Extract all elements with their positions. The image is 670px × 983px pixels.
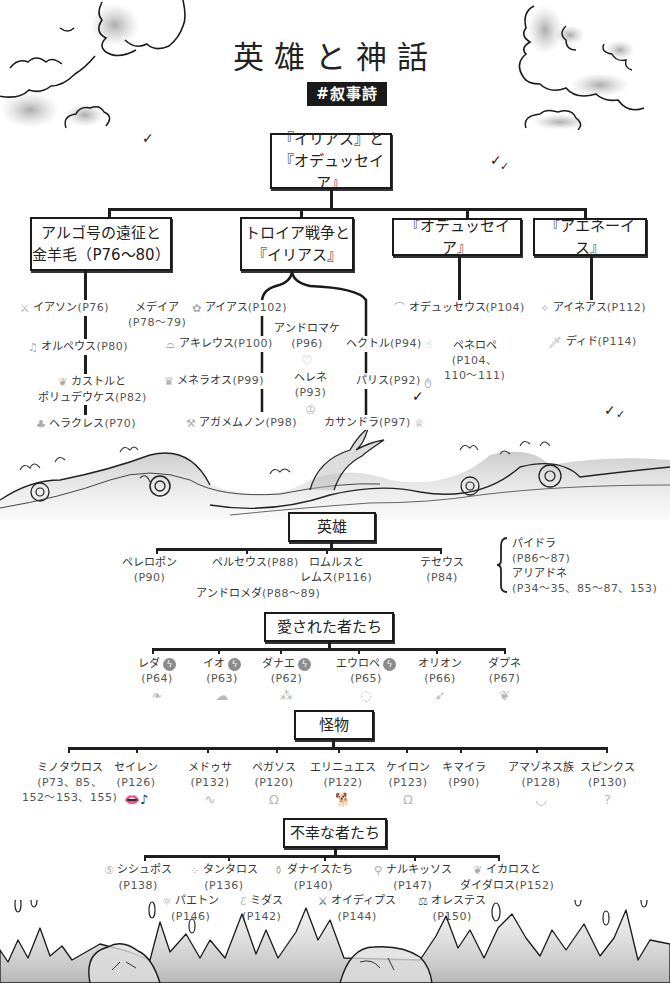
heel-icon: ⌓ bbox=[166, 337, 175, 352]
item-page: (P98) bbox=[265, 416, 297, 429]
connector bbox=[144, 855, 146, 861]
item-name: アイアス bbox=[205, 301, 248, 314]
item-name: ポリュデウケス bbox=[38, 391, 115, 404]
item-achilles: ⌓ アキレウス(P100) bbox=[164, 336, 275, 352]
root-line2: 『オデュッセイア』 bbox=[272, 150, 390, 194]
item-page: (P76) bbox=[77, 301, 109, 314]
section-label: 怪物 bbox=[296, 714, 372, 736]
item-page: (P100) bbox=[234, 337, 273, 350]
item-midas: ℰ ミダス (P142) bbox=[240, 893, 283, 924]
item-page: (P93) bbox=[294, 385, 327, 400]
bird-icon: ✓ bbox=[142, 130, 154, 146]
connector bbox=[498, 855, 500, 861]
item-bellerophon: ペレロポン (P90) bbox=[122, 555, 177, 585]
bulb-icon: ♕ bbox=[414, 416, 424, 431]
connector bbox=[436, 648, 438, 654]
item-page: (P104、 bbox=[444, 353, 505, 368]
lightning-bolt-icon: ϟ bbox=[163, 658, 176, 671]
item-icarus-daedalus: ❦ イカロスと ダイダロス(P152) bbox=[460, 862, 554, 893]
item-page: (P136) bbox=[190, 878, 258, 893]
unfortunate-ones-box: 不幸な者たち bbox=[283, 818, 387, 848]
connector bbox=[440, 548, 442, 554]
lightning-bolt-icon: ϟ bbox=[383, 658, 396, 671]
root-line1: 『イリアス』と bbox=[272, 128, 390, 150]
item-page: (P86〜87) bbox=[512, 551, 570, 566]
item-page: (P88〜89) bbox=[262, 587, 320, 600]
item-name: アリアドネ bbox=[512, 566, 657, 581]
connector bbox=[136, 747, 138, 753]
item-name: メネラオス bbox=[177, 374, 232, 387]
knife-icon: 🗡 bbox=[548, 335, 562, 350]
item-name: ヘクトル bbox=[346, 337, 390, 350]
item-aeneas: ✧ アイネアス(P112) bbox=[540, 300, 646, 316]
item-page: (P65) bbox=[336, 671, 396, 686]
branch-line2: 金羊毛（P76〜80） bbox=[32, 244, 170, 266]
item-page: (P112) bbox=[607, 301, 646, 314]
bird-icon: ✓ bbox=[616, 408, 625, 421]
item-oedipus: ⚔ オイディプス (P144) bbox=[318, 893, 396, 924]
item-tantalus: ⁘ タンタロス (P136) bbox=[190, 862, 258, 893]
connector bbox=[324, 855, 326, 861]
item-minotaur: ミノタウロス (P73、85、 152〜153、155) bbox=[22, 760, 117, 805]
branch-box-trojan-war: トロイア戦争と 『イリアス』 bbox=[240, 217, 354, 271]
jar-icon: ⚱ bbox=[274, 863, 283, 878]
item-name: キマイラ bbox=[442, 760, 486, 775]
connector bbox=[152, 648, 506, 651]
flower-icon: ✿ bbox=[192, 301, 201, 316]
item-name: メデイア bbox=[128, 300, 186, 315]
item-name: オルペウス bbox=[41, 340, 96, 353]
page-title: 英雄と神話 bbox=[0, 32, 670, 77]
dog-icon: 🐕 bbox=[310, 792, 376, 807]
item-name: アマゾネス族 bbox=[508, 760, 574, 775]
snake-icon: ∿ bbox=[188, 792, 232, 807]
item-daphne: ダプネ (P67) ❦ bbox=[488, 656, 521, 703]
item-chiron: ケイロン (P123) Ω bbox=[386, 760, 430, 807]
item-name: レダ bbox=[138, 657, 160, 670]
connector bbox=[536, 747, 538, 753]
boat-icon: ⌒ bbox=[394, 301, 405, 316]
item-page: (P140) bbox=[274, 878, 353, 893]
item-page: (P73、85、 bbox=[22, 775, 117, 790]
connector bbox=[108, 208, 584, 211]
item-pegasus: ペガソス (P120) Ω bbox=[252, 760, 296, 807]
scales-icon: ⚖ bbox=[418, 894, 428, 909]
item-name: アンドロマケ bbox=[274, 321, 340, 336]
item-page: (P66) bbox=[418, 671, 462, 686]
item-name: オデュッセウス bbox=[409, 301, 486, 314]
branch-box-aeneid: 『アエネーイス』 bbox=[533, 218, 647, 256]
item-name: ヘラクレス bbox=[49, 417, 104, 430]
item-ajax: ✿ アイアス(P102) bbox=[190, 300, 289, 316]
connector bbox=[144, 855, 498, 858]
item-name: アンドロメダ bbox=[196, 587, 262, 600]
loved-ones-box: 愛された者たち bbox=[264, 612, 394, 642]
item-page: (P84) bbox=[420, 570, 464, 585]
item-page: (P122) bbox=[310, 775, 376, 790]
item-agamemnon: ⚒ アガメムノン(P98) bbox=[184, 415, 299, 431]
item-name: スピンクス bbox=[580, 760, 635, 775]
connector bbox=[338, 747, 340, 753]
connector bbox=[326, 548, 328, 554]
item-page: (P147) bbox=[374, 878, 452, 893]
section-label: 英雄 bbox=[290, 516, 374, 538]
item-page: (P94) bbox=[390, 337, 422, 350]
connector bbox=[228, 855, 230, 861]
target-icon: ◡ bbox=[508, 792, 574, 807]
apple-icon: ტ bbox=[424, 374, 431, 389]
item-name: ディド bbox=[566, 335, 598, 348]
item-name: カサンドラ bbox=[324, 416, 379, 429]
item-page: (P63) bbox=[203, 671, 241, 686]
waves-mermaid-decoration bbox=[0, 430, 670, 520]
mirror-icon: ⚲ bbox=[374, 863, 382, 878]
item-name: テセウス bbox=[420, 555, 464, 570]
rock-icon: ⑤ bbox=[104, 863, 114, 878]
item-page: (P138) bbox=[104, 878, 172, 893]
item-page: (P116) bbox=[333, 571, 372, 584]
wings-icon: ❦ bbox=[473, 863, 482, 878]
item-page: (P144) bbox=[318, 909, 396, 924]
grape-icon: ⁘ bbox=[190, 863, 199, 878]
item-name: ナルキッソス bbox=[386, 863, 452, 876]
gold-rain-icon: ⁂ bbox=[262, 688, 311, 703]
hand-icon: ☝ bbox=[425, 337, 432, 352]
item-page: (P102) bbox=[248, 301, 287, 314]
connector bbox=[330, 189, 333, 209]
